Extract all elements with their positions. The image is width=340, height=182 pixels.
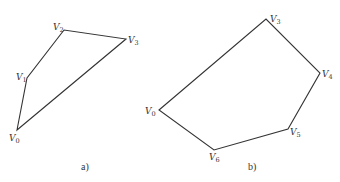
caption-b: b) (248, 161, 256, 173)
vertex-label: V1 (16, 72, 27, 84)
vertex-label: V6 (209, 152, 220, 164)
vertex-label: V0 (9, 133, 20, 145)
vertex-label: V0 (145, 106, 156, 118)
figure-b: V0V3V4V5V6 b) (145, 14, 333, 173)
vertex-labels-a: V0V1V2V3 (9, 22, 139, 145)
vertex-label: V3 (128, 35, 139, 47)
polygon-diagram: V0V1V2V3 a) V0V3V4V5V6 b) (0, 0, 340, 182)
vertex-labels-b: V0V3V4V5V6 (145, 14, 333, 164)
vertex-label: V5 (290, 127, 301, 139)
vertex-label: V4 (322, 69, 333, 81)
figure-a: V0V1V2V3 a) (9, 22, 139, 173)
vertex-label: V2 (53, 22, 64, 34)
caption-a: a) (81, 161, 89, 173)
polygon-a (17, 30, 126, 130)
